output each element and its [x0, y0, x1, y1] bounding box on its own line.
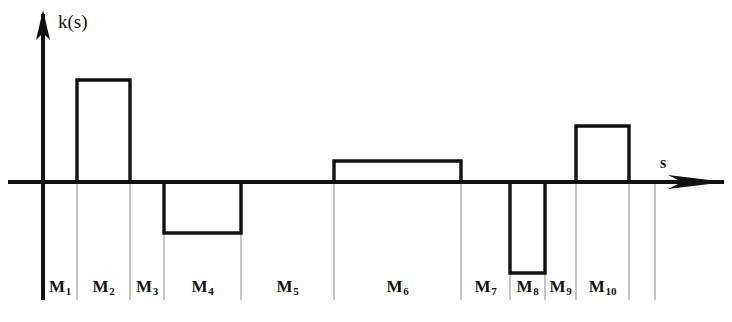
- bar-m6: [334, 161, 461, 182]
- segment-label-m9: M9: [550, 278, 572, 295]
- segment-label-m6: M6: [387, 278, 409, 295]
- curvature-plot-svg: [0, 0, 732, 322]
- segment-label-m3: M3: [136, 278, 158, 295]
- segment-label-m8: M8: [517, 278, 539, 295]
- segment-label-m4: M4: [192, 278, 214, 295]
- segment-label-m2: M2: [93, 278, 115, 295]
- bar-m4: [164, 182, 241, 233]
- segment-label-m7: M7: [475, 278, 497, 295]
- x-axis-label: s: [660, 155, 666, 171]
- y-axis-label: k(s): [58, 12, 88, 31]
- segment-label-m10: M10: [589, 278, 617, 295]
- bar-m2: [77, 80, 130, 182]
- bar-group: [77, 80, 629, 273]
- figure-canvas: k(s) s M1M2M3M4M5M6M7M8M9M10: [0, 0, 732, 322]
- segment-label-m5: M5: [277, 278, 299, 295]
- segment-label-m1: M1: [49, 278, 71, 295]
- bar-m8: [510, 182, 545, 273]
- axes-group: [8, 10, 726, 300]
- bar-m10: [576, 126, 629, 182]
